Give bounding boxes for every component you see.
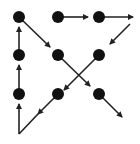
dot-r1c1 (13, 11, 25, 23)
dot-r2c2 (52, 49, 64, 61)
dot-r3c2 (52, 88, 64, 100)
nine-dots-diagram (0, 0, 140, 144)
arrow-line-4 (64, 55, 99, 90)
arrow-line-3 (110, 24, 130, 44)
arrow-line-6 (19, 114, 38, 134)
arrow-line-10 (19, 17, 50, 47)
dot-r3c3 (93, 88, 105, 100)
dot-r2c3 (93, 49, 105, 61)
dot-r1c2 (52, 11, 64, 23)
arrow-line-11 (58, 55, 90, 86)
dot-r2c1 (13, 49, 25, 61)
arrow-lines (19, 17, 133, 134)
dot-r3c1 (13, 88, 25, 100)
dot-r1c3 (93, 11, 105, 23)
